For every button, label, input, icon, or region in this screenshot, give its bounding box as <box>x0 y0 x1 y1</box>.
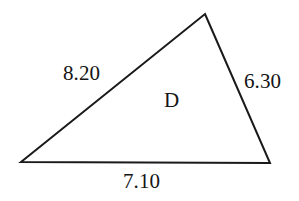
base-side-length-label: 7.10 <box>123 171 160 192</box>
right-side-length-label: 6.30 <box>244 71 281 92</box>
triangle-figure: 8.20 6.30 7.10 D <box>0 0 299 201</box>
interior-region-label: D <box>164 90 179 111</box>
triangle-outline <box>21 14 270 163</box>
left-side-length-label: 8.20 <box>63 63 100 84</box>
